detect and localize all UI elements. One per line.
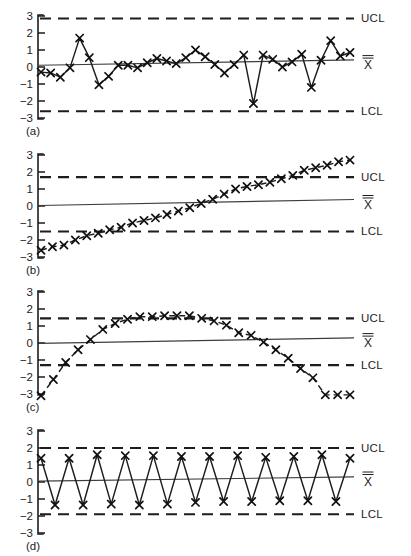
data-point-marker xyxy=(144,59,151,66)
data-point-marker xyxy=(234,452,241,459)
data-point-marker xyxy=(276,497,283,504)
panel-tag-c: (c) xyxy=(26,401,40,413)
y-axis-c: 3210−1−2−3 xyxy=(20,286,45,400)
y-tick-label--1: −1 xyxy=(20,354,33,366)
data-point-marker xyxy=(332,498,339,505)
data-point-marker xyxy=(279,63,286,70)
control-chart-panel-c: 3210−1−2−3UCLLCLX(c) xyxy=(0,278,411,417)
y-tick-label--3: −3 xyxy=(20,251,33,263)
data-point-marker xyxy=(269,56,276,63)
ucl-label: UCL xyxy=(361,442,385,454)
series-markers-c xyxy=(37,312,353,399)
y-tick-label--2: −2 xyxy=(20,510,33,522)
y-tick-label--2: −2 xyxy=(20,95,33,107)
y-tick-label-3: 3 xyxy=(27,286,33,298)
x-double-bar-glyph: X xyxy=(364,198,372,212)
data-point-marker xyxy=(72,236,79,243)
y-tick-label-2: 2 xyxy=(27,166,33,178)
data-point-marker xyxy=(318,451,325,458)
ucl-label: UCL xyxy=(361,12,385,24)
control-chart-panel-d: 3210−1−2−3UCLLCLX(d) xyxy=(0,417,411,556)
panel-tag-d: (d) xyxy=(26,540,40,552)
data-point-marker xyxy=(95,81,102,88)
control-chart-panel-a: 3210−1−2−3UCLLCLX(a) xyxy=(0,2,411,141)
lcl-label: LCL xyxy=(361,105,383,117)
y-tick-label--2: −2 xyxy=(20,234,33,246)
data-point-marker xyxy=(301,167,308,174)
y-tick-label--3: −3 xyxy=(20,527,33,539)
data-point-marker xyxy=(206,453,213,460)
y-tick-label--3: −3 xyxy=(20,388,33,400)
y-tick-label-1: 1 xyxy=(27,459,33,471)
data-point-marker xyxy=(232,185,239,192)
data-point-marker xyxy=(309,374,316,381)
y-tick-label--1: −1 xyxy=(20,217,33,229)
data-point-marker xyxy=(50,376,57,383)
y-tick-label-2: 2 xyxy=(27,27,33,39)
data-point-marker xyxy=(288,58,295,65)
ucl-label: UCL xyxy=(361,312,385,324)
control-chart-panel-b: 3210−1−2−3UCLLCLX(b) xyxy=(0,141,411,280)
data-point-marker xyxy=(221,191,228,198)
y-tick-label-1: 1 xyxy=(27,183,33,195)
series-line-c xyxy=(41,316,350,396)
y-tick-label-2: 2 xyxy=(27,303,33,315)
data-point-marker xyxy=(285,355,292,362)
data-point-marker xyxy=(327,37,334,44)
data-point-marker xyxy=(76,35,83,42)
y-tick-label-0: 0 xyxy=(27,337,33,349)
lcl-label: LCL xyxy=(361,359,383,371)
data-point-marker xyxy=(198,200,205,207)
x-double-bar-glyph: X xyxy=(364,58,372,72)
data-point-marker xyxy=(105,73,112,80)
data-point-marker xyxy=(272,346,279,353)
lcl-label: LCL xyxy=(361,225,383,237)
centerline-label: X xyxy=(363,196,374,213)
ucl-label: UCL xyxy=(361,171,385,183)
centerline-label: X xyxy=(363,56,374,73)
data-point-marker xyxy=(304,497,311,504)
data-point-marker xyxy=(262,454,269,461)
data-point-marker xyxy=(112,320,119,327)
y-tick-label-0: 0 xyxy=(27,476,33,488)
y-axis-a: 3210−1−2−3 xyxy=(20,10,45,124)
data-point-marker xyxy=(74,346,81,353)
x-double-bar-glyph: X xyxy=(364,475,372,489)
y-tick-label--1: −1 xyxy=(20,78,33,90)
data-point-marker xyxy=(202,53,209,60)
series-line-a xyxy=(41,38,350,103)
data-point-marker xyxy=(346,49,353,56)
data-point-marker xyxy=(192,46,199,53)
panel-tag-a: (a) xyxy=(26,125,40,137)
data-point-marker xyxy=(346,455,353,462)
panel-tag-b: (b) xyxy=(26,264,40,276)
y-tick-label-3: 3 xyxy=(27,425,33,437)
data-point-marker xyxy=(248,498,255,505)
y-tick-label-3: 3 xyxy=(27,149,33,161)
y-tick-label--3: −3 xyxy=(20,112,33,124)
data-point-marker xyxy=(182,54,189,61)
control-chart-figure: 3210−1−2−3UCLLCLX(a)3210−1−2−3UCLLCLX(b)… xyxy=(0,0,411,556)
y-tick-label-1: 1 xyxy=(27,320,33,332)
data-point-marker xyxy=(337,52,344,59)
data-point-marker xyxy=(57,74,64,81)
data-point-marker xyxy=(290,453,297,460)
y-tick-label-0: 0 xyxy=(27,61,33,73)
x-double-bar-glyph: X xyxy=(364,336,372,350)
center-line xyxy=(39,477,354,481)
data-point-marker xyxy=(220,498,227,505)
y-tick-label--2: −2 xyxy=(20,371,33,383)
data-point-marker xyxy=(99,326,106,333)
y-tick-label--1: −1 xyxy=(20,493,33,505)
lcl-label: LCL xyxy=(361,508,383,520)
centerline-label: X xyxy=(363,334,374,351)
data-point-marker xyxy=(129,219,136,226)
data-point-marker xyxy=(86,54,93,61)
y-tick-label-1: 1 xyxy=(27,44,33,56)
y-tick-label-2: 2 xyxy=(27,442,33,454)
data-point-marker xyxy=(221,69,228,76)
y-tick-label-3: 3 xyxy=(27,10,33,22)
data-point-marker xyxy=(223,322,230,329)
data-point-marker xyxy=(192,499,199,506)
centerline-label: X xyxy=(363,472,374,489)
